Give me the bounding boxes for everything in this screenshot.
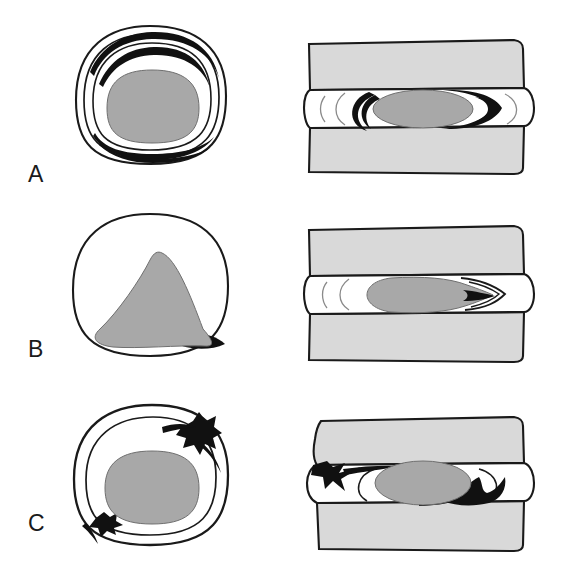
sagittal-view-b [283, 190, 567, 380]
figure-container: A B C [0, 0, 567, 571]
sagittal-view-a [283, 0, 567, 190]
nucleus-pulposus-c [105, 451, 199, 524]
vertebral-body-inferior-a [309, 126, 524, 174]
vertebral-body-inferior-b [309, 312, 524, 362]
row-label-c: C [28, 512, 45, 535]
sagittal-view-c [283, 381, 567, 571]
vertebral-body-superior-c [314, 417, 524, 465]
axial-view-c [0, 381, 283, 571]
vertebral-body-superior-b [309, 226, 524, 276]
panel-row-c [0, 381, 567, 571]
nucleus-pulposus-sagittal-a [373, 90, 473, 128]
row-label-a: A [28, 163, 44, 186]
nucleus-pulposus-a [107, 70, 199, 143]
vertebral-body-superior-a [309, 40, 524, 90]
row-label-b: B [28, 338, 44, 361]
nucleus-pulposus-sagittal-c [375, 461, 471, 505]
vertebral-body-inferior-c [317, 501, 524, 551]
panel-row-a [0, 0, 567, 190]
panel-row-b [0, 190, 567, 380]
